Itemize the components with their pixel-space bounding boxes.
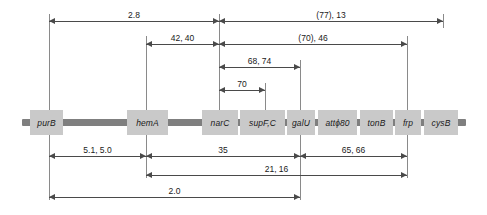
gene-box-frp[interactable]: frp <box>395 110 421 135</box>
gene-box-cysb[interactable]: cysB <box>424 110 458 135</box>
arrow-left-icon <box>146 41 152 47</box>
dimension-line-d-70: 70 <box>219 90 265 91</box>
gene-box-tonb[interactable]: tonB <box>360 110 393 135</box>
arrow-right-icon <box>401 41 407 47</box>
dimension-line-d-35: 35 <box>146 156 300 157</box>
arrow-left-icon <box>300 153 306 159</box>
arrow-left-icon <box>49 153 55 159</box>
gene-box-purb[interactable]: purB <box>30 110 63 135</box>
leader-line-frp <box>407 36 408 178</box>
dimension-line-d-51-50: 5.1, 5.0 <box>49 156 146 157</box>
dimension-label-d-35: 35 <box>215 145 230 155</box>
dimension-line-d-65-66: 65, 66 <box>300 156 407 157</box>
arrow-left-icon <box>219 18 225 24</box>
dimension-label-d-68-74: 68, 74 <box>245 56 275 66</box>
arrow-left-icon <box>49 194 55 200</box>
arrow-left-icon <box>146 153 152 159</box>
dimension-line-d-68-74: 68, 74 <box>219 67 300 68</box>
arrow-left-icon <box>49 18 55 24</box>
leader-line-supF <box>265 83 266 113</box>
dimension-line-d-2-0: 2.0 <box>49 197 300 198</box>
dimension-line-d-21-16: 21, 16 <box>146 175 407 176</box>
dimension-label-d-77-13: (77), 13 <box>313 10 348 20</box>
arrow-right-icon <box>259 87 265 93</box>
dimension-label-d-51-50: 5.1, 5.0 <box>80 145 114 155</box>
dimension-line-d-70-46: (70), 46 <box>219 44 407 45</box>
arrow-left-icon <box>146 172 152 178</box>
arrow-right-icon <box>294 194 300 200</box>
dimension-label-d-70: 70 <box>234 79 249 89</box>
genetic-map-diagram: purBhemAnarCsupF,CgalUattϕ80tonBfrpcysB … <box>0 0 487 215</box>
arrow-left-icon <box>219 87 225 93</box>
gene-box-narc[interactable]: narC <box>202 110 238 135</box>
gene-box-galu[interactable]: galU <box>287 110 315 135</box>
arrow-left-icon <box>219 41 225 47</box>
dimension-line-d-2-8: 2.8 <box>49 21 219 22</box>
dimension-label-d-21-16: 21, 16 <box>262 164 292 174</box>
arrow-right-icon <box>401 172 407 178</box>
gene-box-supfc[interactable]: supF,C <box>240 110 285 135</box>
arrow-right-icon <box>294 64 300 70</box>
arrow-right-icon <box>437 18 443 24</box>
leader-line-cysB <box>443 14 444 28</box>
dimension-label-d-2-0: 2.0 <box>166 186 184 196</box>
dimension-label-d-70-46: (70), 46 <box>295 33 330 43</box>
dimension-label-d-2-8: 2.8 <box>125 10 143 20</box>
gene-box-att80[interactable]: attϕ80 <box>318 110 357 135</box>
dimension-line-d-42-40: 42, 40 <box>146 44 219 45</box>
leader-line-purB <box>49 14 50 200</box>
arrow-left-icon <box>219 64 225 70</box>
gene-box-hema[interactable]: hemA <box>127 110 168 135</box>
dimension-label-d-65-66: 65, 66 <box>339 145 369 155</box>
dimension-label-d-42-40: 42, 40 <box>168 33 198 43</box>
dimension-line-d-77-13: (77), 13 <box>219 21 443 22</box>
arrow-right-icon <box>401 153 407 159</box>
